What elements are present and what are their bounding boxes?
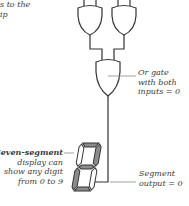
segment-f — [76, 144, 85, 166]
or-gate-label-line: Or gate — [138, 68, 180, 78]
display-label-bold: Seven-segment — [0, 147, 63, 157]
segment-g — [78, 165, 95, 169]
seven-segment-display — [71, 143, 101, 191]
display-label: Seven-segment display can show any digit… — [0, 148, 63, 186]
or-gate-label-line: with both — [138, 78, 180, 88]
or-gate-label: Or gate with both inputs = 0 — [138, 68, 180, 97]
display-label-line: from 0 to 9 — [0, 177, 63, 187]
or-gate-top-left — [78, 0, 102, 35]
segment-output-line: Segment — [139, 169, 183, 179]
or-gate-label-line: inputs = 0 — [138, 87, 180, 97]
caption-line: s to the — [0, 0, 30, 10]
segment-output-label: Segment output = 0 — [139, 169, 183, 188]
segment-output-line: output = 0 — [139, 179, 183, 189]
top-left-caption: s to the ip — [0, 0, 30, 19]
or-gate-top-right — [112, 0, 136, 35]
caption-line: ip — [0, 10, 30, 20]
segment-c — [88, 168, 97, 190]
wires-top — [90, 35, 124, 62]
segment-d — [74, 187, 91, 191]
segment-a — [82, 143, 99, 147]
display-label-line: show any digit — [0, 167, 63, 177]
or-gate-bottom — [96, 60, 120, 97]
display-label-line: display can — [0, 158, 63, 168]
